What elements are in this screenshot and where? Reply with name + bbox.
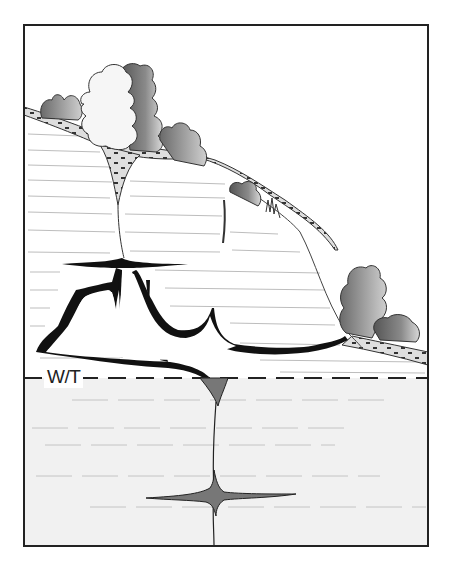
tree-white-tall (81, 65, 137, 150)
tree-left-dark (41, 95, 82, 120)
horizontal-passage-upper (62, 258, 188, 268)
fissure-main (118, 205, 124, 258)
saturated-zone (24, 378, 428, 546)
water-table-label: W/T (44, 366, 83, 388)
tree-mid (160, 123, 207, 166)
fissure-secondary (223, 200, 225, 243)
grass (266, 198, 280, 218)
karst-diagram (0, 0, 451, 569)
tree-right-small (374, 315, 420, 342)
